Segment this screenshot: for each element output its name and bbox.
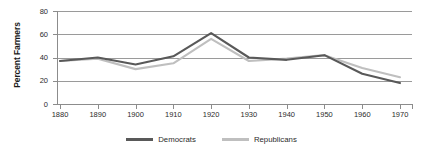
x-tick-label: 1920: [191, 110, 231, 119]
x-axis-line: [57, 104, 413, 105]
x-tick-mark: [412, 105, 413, 109]
x-tick-label: 1890: [78, 110, 118, 119]
x-tick-mark: [173, 105, 174, 109]
x-tick-label: 1970: [380, 110, 420, 119]
legend-label: Democrats: [158, 136, 196, 144]
legend-item-republicans[interactable]: Republicans: [222, 136, 297, 144]
x-tick-label: 1940: [267, 110, 307, 119]
y-tick-label: 80: [0, 7, 48, 16]
plot-area: [57, 11, 412, 104]
y-tick-mark: [53, 34, 57, 35]
y-tick-label: 60: [0, 30, 48, 39]
legend-label: Republicans: [254, 136, 297, 144]
x-tick-mark: [98, 105, 99, 109]
x-tick-mark: [136, 105, 137, 109]
x-tick-mark: [324, 105, 325, 109]
legend-item-democrats[interactable]: Democrats: [126, 136, 196, 144]
x-tick-label: 1900: [116, 110, 156, 119]
legend-swatch-icon: [126, 138, 153, 141]
gridline: [57, 11, 412, 12]
x-tick-mark: [211, 105, 212, 109]
y-tick-label: 0: [0, 100, 48, 109]
x-tick-label: 1950: [304, 110, 344, 119]
x-tick-label: 1910: [153, 110, 193, 119]
y-tick-mark: [53, 81, 57, 82]
x-tick-mark: [249, 105, 250, 109]
chart-legend: DemocratsRepublicans: [0, 136, 423, 144]
x-tick-label: 1880: [40, 110, 80, 119]
line-chart: Percent Farmers 020406080 DemocratsRepub…: [0, 0, 423, 160]
y-tick-label: 20: [0, 76, 48, 85]
gridline: [57, 81, 412, 82]
x-tick-mark: [400, 105, 401, 109]
y-tick-mark: [53, 11, 57, 12]
x-tick-mark: [287, 105, 288, 109]
y-tick-mark: [53, 58, 57, 59]
x-tick-label: 1930: [229, 110, 269, 119]
x-tick-mark: [60, 105, 61, 109]
gridline: [57, 58, 412, 59]
y-tick-mark: [53, 104, 57, 105]
legend-swatch-icon: [222, 138, 249, 141]
y-tick-label: 40: [0, 53, 48, 62]
x-tick-label: 1960: [342, 110, 382, 119]
x-tick-mark: [362, 105, 363, 109]
y-axis-line: [57, 11, 58, 105]
gridline: [57, 34, 412, 35]
